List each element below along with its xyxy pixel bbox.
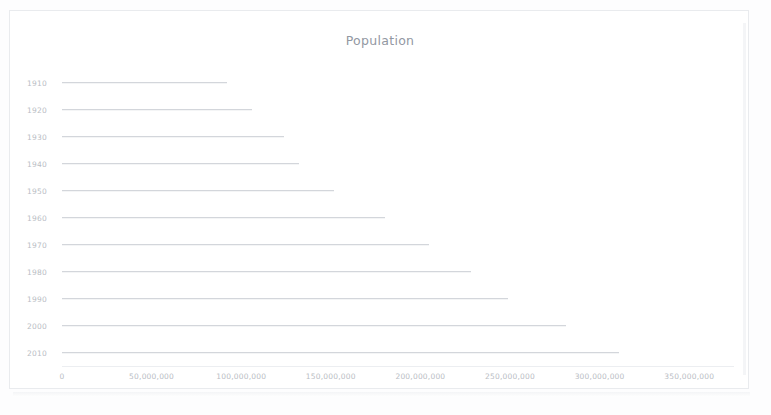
plot-area: 1910192019301940195019601970198019902000… xyxy=(53,69,741,366)
y-axis-tick-label: 1980 xyxy=(27,267,47,276)
x-axis-tick-label: 350,000,000 xyxy=(664,372,714,381)
y-axis-tick-label: 1910 xyxy=(27,78,47,87)
x-axis-tick-label: 150,000,000 xyxy=(306,372,356,381)
bar-row: 1980 xyxy=(53,258,741,285)
chart-title: Population xyxy=(10,33,750,48)
plot-right-edge xyxy=(743,23,746,375)
bar[interactable] xyxy=(62,163,299,165)
y-axis-tick-label: 2000 xyxy=(27,321,47,330)
bar[interactable] xyxy=(62,217,385,219)
bar[interactable] xyxy=(62,352,619,354)
y-axis-tick-label: 1930 xyxy=(27,132,47,141)
chart-card: Population 19101920193019401950196019701… xyxy=(9,10,749,389)
y-axis-tick-label: 1990 xyxy=(27,294,47,303)
bar[interactable] xyxy=(62,244,429,246)
bar[interactable] xyxy=(62,298,508,300)
x-axis-tick-label: 50,000,000 xyxy=(129,372,174,381)
x-axis-tick-label: 200,000,000 xyxy=(395,372,445,381)
bar-row: 1950 xyxy=(53,177,741,204)
y-axis-tick-label: 2010 xyxy=(27,348,47,357)
bar-rows: 1910192019301940195019601970198019902000… xyxy=(53,69,741,366)
y-axis-tick-label: 1920 xyxy=(27,105,47,114)
x-axis-tick-label: 300,000,000 xyxy=(575,372,625,381)
bar-row: 1910 xyxy=(53,69,741,96)
y-axis-tick-label: 1950 xyxy=(27,186,47,195)
x-axis-tick-label: 250,000,000 xyxy=(485,372,535,381)
x-axis-tick-label: 100,000,000 xyxy=(216,372,266,381)
bar-row: 1970 xyxy=(53,231,741,258)
x-axis-tick-label: 0 xyxy=(60,372,65,381)
bar-row: 2010 xyxy=(53,339,741,366)
bar-row: 1940 xyxy=(53,150,741,177)
bar-row: 1990 xyxy=(53,285,741,312)
bar[interactable] xyxy=(62,136,284,138)
bar[interactable] xyxy=(62,325,566,327)
card-shadow xyxy=(13,392,750,397)
bar[interactable] xyxy=(62,271,471,273)
y-axis-tick-label: 1940 xyxy=(27,159,47,168)
bar-row: 1960 xyxy=(53,204,741,231)
bar-row: 2000 xyxy=(53,312,741,339)
y-axis-tick-label: 1970 xyxy=(27,240,47,249)
chart-page: Population 19101920193019401950196019701… xyxy=(0,0,771,415)
y-axis-tick-label: 1960 xyxy=(27,213,47,222)
bar-row: 1920 xyxy=(53,96,741,123)
bar[interactable] xyxy=(62,190,334,192)
x-axis-tick-labels: 050,000,000100,000,000150,000,000200,000… xyxy=(53,372,741,392)
bar[interactable] xyxy=(62,109,252,111)
bar-row: 1930 xyxy=(53,123,741,150)
x-axis-line xyxy=(62,366,734,367)
bar[interactable] xyxy=(62,82,227,84)
